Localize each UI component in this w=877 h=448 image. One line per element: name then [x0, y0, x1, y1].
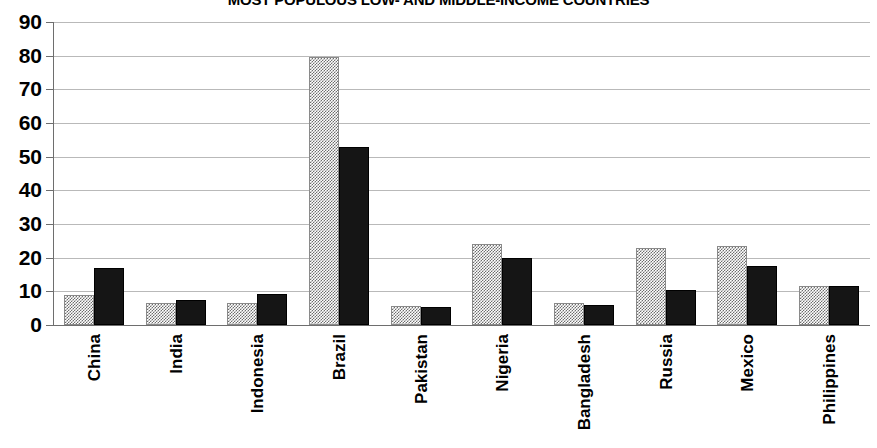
y-axis-tick-label-20: 20	[0, 247, 42, 268]
x-axis-tick-label-brazil: Brazil	[330, 334, 347, 380]
x-axis-label-slot: Philippines	[788, 326, 870, 448]
bar[interactable]	[309, 57, 339, 325]
y-axis-tick-label-60: 60	[0, 112, 42, 133]
y-tick-mark-0	[46, 325, 54, 326]
bar[interactable]	[176, 300, 206, 325]
y-tick-mark-60	[46, 123, 54, 124]
x-axis-tick-label-mexico: Mexico	[739, 334, 756, 392]
bar[interactable]	[666, 290, 696, 325]
y-tick-mark-90	[46, 22, 54, 23]
bar[interactable]	[257, 294, 287, 325]
bar-group	[788, 22, 870, 325]
bar[interactable]	[636, 248, 666, 325]
x-axis-tick-label-pakistan: Pakistan	[412, 334, 429, 404]
bar[interactable]	[339, 147, 369, 325]
bar[interactable]	[747, 266, 777, 325]
x-axis-label-slot: Brazil	[298, 326, 380, 448]
chart-page: MOST POPULOUS LOW- AND MIDDLE-INCOME COU…	[0, 0, 877, 448]
bar[interactable]	[584, 305, 614, 325]
bar-group	[380, 22, 462, 325]
bar[interactable]	[799, 286, 829, 325]
y-tick-mark-30	[46, 224, 54, 225]
x-axis-label-slot: Russia	[625, 326, 707, 448]
bar-group	[298, 22, 380, 325]
bar[interactable]	[227, 303, 257, 325]
y-axis-tick-label-50: 50	[0, 146, 42, 167]
x-axis-labels: ChinaIndiaIndonesiaBrazilPakistanNigeria…	[53, 326, 870, 448]
chart-title: MOST POPULOUS LOW- AND MIDDLE-INCOME COU…	[0, 0, 877, 8]
x-axis-tick-label-indonesia: Indonesia	[249, 334, 266, 413]
x-axis-tick-label-russia: Russia	[657, 334, 674, 390]
x-axis-label-slot: Mexico	[707, 326, 789, 448]
x-axis-label-slot: Pakistan	[380, 326, 462, 448]
y-axis-tick-label-80: 80	[0, 45, 42, 66]
y-axis-tick-label-90: 90	[0, 11, 42, 32]
y-tick-mark-20	[46, 258, 54, 259]
x-axis-tick-label-nigeria: Nigeria	[494, 334, 511, 392]
x-axis-tick-label-philippines: Philippines	[821, 334, 838, 425]
x-axis-tick-label-bangladesh: Bangladesh	[576, 334, 593, 430]
bar[interactable]	[554, 303, 584, 325]
x-axis-label-slot: India	[135, 326, 217, 448]
x-axis-tick-label-india: India	[167, 334, 184, 374]
x-axis-label-slot: Indonesia	[216, 326, 298, 448]
bar[interactable]	[391, 306, 421, 325]
bar-group	[135, 22, 217, 325]
y-axis-tick-label-40: 40	[0, 179, 42, 200]
y-tick-mark-40	[46, 190, 54, 191]
y-tick-mark-80	[46, 56, 54, 57]
bar-group	[462, 22, 544, 325]
y-tick-mark-10	[46, 291, 54, 292]
bar-group	[625, 22, 707, 325]
bar[interactable]	[717, 246, 747, 325]
x-axis-label-slot: Bangladesh	[543, 326, 625, 448]
y-axis-tick-label-70: 70	[0, 78, 42, 99]
x-axis-label-slot: China	[53, 326, 135, 448]
x-axis-tick-label-china: China	[85, 334, 102, 381]
y-axis-tick-label-0: 0	[0, 314, 42, 335]
y-tick-mark-50	[46, 157, 54, 158]
bars-layer	[53, 22, 870, 325]
bar[interactable]	[146, 303, 176, 325]
y-tick-mark-70	[46, 89, 54, 90]
bar[interactable]	[421, 307, 451, 325]
bar-group	[543, 22, 625, 325]
bar[interactable]	[502, 258, 532, 325]
bar[interactable]	[94, 268, 124, 325]
bar-group	[216, 22, 298, 325]
bar[interactable]	[472, 244, 502, 325]
x-axis-label-slot: Nigeria	[462, 326, 544, 448]
bar-group	[707, 22, 789, 325]
bar-group	[53, 22, 135, 325]
bar[interactable]	[64, 295, 94, 325]
y-axis-tick-label-10: 10	[0, 280, 42, 301]
y-axis-tick-label-30: 30	[0, 213, 42, 234]
bar[interactable]	[829, 286, 859, 325]
